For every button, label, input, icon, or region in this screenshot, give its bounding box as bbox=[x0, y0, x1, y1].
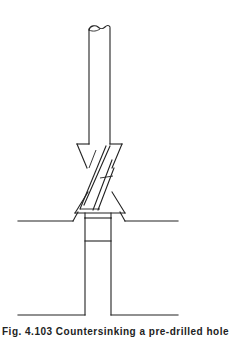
figure-caption: Fig. 4.103 Countersinking a pre-drilled … bbox=[2, 326, 194, 337]
pilot-hole bbox=[18, 218, 178, 315]
drill-tip bbox=[85, 213, 111, 241]
drill-shank bbox=[89, 26, 110, 145]
spiral-flutes bbox=[80, 146, 114, 210]
